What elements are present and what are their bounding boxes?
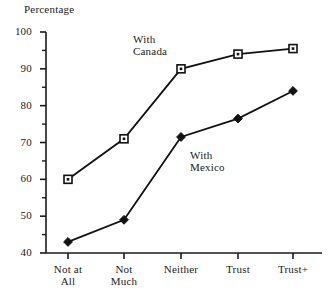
y-axis-tick-label: 40 — [6, 246, 32, 258]
data-point-marker — [120, 135, 128, 143]
data-point-marker — [177, 65, 185, 73]
data-point-marker — [234, 50, 242, 58]
y-axis-tick-label: 60 — [6, 172, 32, 184]
y-axis-tick-label: 80 — [6, 99, 32, 111]
x-axis-tick-label: NotMuch — [92, 263, 156, 287]
y-axis-tick-label: 100 — [6, 25, 32, 37]
x-axis-tick-label: Neither — [149, 263, 213, 275]
data-point-marker — [289, 87, 298, 96]
x-axis-tick-label-line: Not — [92, 263, 156, 275]
y-axis-tick-label: 90 — [6, 62, 32, 74]
x-axis-tick-label-line: Neither — [149, 263, 213, 275]
data-point-marker — [64, 238, 73, 247]
data-point-marker — [234, 114, 243, 123]
y-axis-tick-label: 50 — [6, 209, 32, 221]
x-axis-tick-label: Trust+ — [261, 263, 325, 275]
series-label-with-mexico: With Mexico — [190, 149, 225, 173]
line-chart: Percentage 100908070605040 Not atAllNotM… — [0, 0, 329, 295]
series-label-canada-line2: Canada — [133, 45, 167, 57]
x-axis-tick-label-line: Trust+ — [261, 263, 325, 275]
data-point-marker — [289, 45, 297, 53]
series-label-with-canada: With Canada — [133, 33, 167, 57]
x-axis-tick-label-line: Not at — [36, 263, 100, 275]
x-axis-tick-label: Not atAll — [36, 263, 100, 287]
y-axis-tick-label: 70 — [6, 136, 32, 148]
series-line — [68, 91, 293, 242]
data-point-marker — [64, 175, 72, 183]
series-label-canada-line1: With — [133, 33, 167, 45]
x-axis-tick-label-line: Much — [92, 275, 156, 287]
series-label-mexico-line2: Mexico — [190, 161, 225, 173]
x-axis-tick-label-line: All — [36, 275, 100, 287]
series-label-mexico-line1: With — [190, 149, 225, 161]
